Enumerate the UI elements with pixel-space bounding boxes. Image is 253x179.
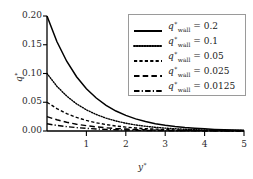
y-tick-label: 0.00 (4, 125, 42, 135)
legend-label: q∗wall = 0.2 (168, 19, 218, 33)
legend-item: q∗wall = 0.2 (133, 18, 241, 33)
legend-line-sample (133, 81, 163, 91)
legend-label: q∗wall = 0.025 (168, 64, 229, 78)
figure: q∗ y∗ 0.000.050.100.150.20 12345 q∗wall … (0, 0, 253, 179)
x-tick-label: 2 (114, 139, 138, 149)
legend-label: q∗wall = 0.0125 (168, 79, 235, 93)
y-tick-label: 0.05 (4, 96, 42, 106)
x-tick-label: 3 (153, 139, 177, 149)
x-axis-label: y∗ (138, 160, 147, 172)
y-tick-label: 0.15 (4, 39, 42, 49)
legend-line-sample (133, 36, 163, 46)
legend-line-sample (133, 51, 163, 61)
x-tick-label: 4 (193, 139, 217, 149)
x-tick-label: 1 (74, 139, 98, 149)
x-tick-label: 5 (232, 139, 253, 149)
legend-label: q∗wall = 0.1 (168, 34, 218, 48)
legend-line-sample (133, 21, 163, 31)
legend-item: q∗wall = 0.05 (133, 48, 241, 63)
legend-item: q∗wall = 0.0125 (133, 78, 241, 93)
y-tick-label: 0.10 (4, 68, 42, 78)
legend-line-sample (133, 66, 163, 76)
legend-item: q∗wall = 0.025 (133, 63, 241, 78)
legend-label: q∗wall = 0.05 (168, 49, 224, 63)
legend: q∗wall = 0.2q∗wall = 0.1q∗wall = 0.05q∗w… (128, 14, 246, 96)
y-tick-label: 0.20 (4, 10, 42, 20)
legend-item: q∗wall = 0.1 (133, 33, 241, 48)
